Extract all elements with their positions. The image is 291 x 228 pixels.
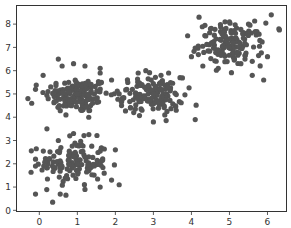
data-point <box>200 63 205 68</box>
data-point <box>98 80 103 85</box>
data-point <box>137 113 142 118</box>
data-point <box>98 184 103 189</box>
data-point <box>44 187 49 192</box>
data-point <box>153 75 158 80</box>
data-point <box>259 50 264 55</box>
data-point <box>90 101 95 106</box>
data-point <box>50 91 55 96</box>
data-point <box>212 33 217 38</box>
data-point <box>78 139 83 144</box>
data-point <box>83 81 88 86</box>
data-point <box>135 96 140 101</box>
data-point <box>79 162 84 167</box>
data-point <box>151 119 156 124</box>
data-point <box>166 70 171 75</box>
y-tick-label: 8 <box>5 19 11 29</box>
data-point <box>60 63 65 68</box>
data-point <box>211 45 216 50</box>
data-point <box>229 31 234 36</box>
data-point <box>79 108 84 113</box>
data-point <box>58 191 63 196</box>
data-point <box>131 110 136 115</box>
data-point <box>33 164 38 169</box>
x-tick-label: 6 <box>265 217 271 227</box>
data-point <box>196 44 201 49</box>
data-point <box>72 141 77 146</box>
data-point <box>75 91 80 96</box>
data-point <box>193 117 198 122</box>
data-point <box>223 26 228 31</box>
data-point <box>91 162 96 167</box>
data-point <box>246 22 251 27</box>
data-point <box>81 133 86 138</box>
data-point <box>41 73 46 78</box>
data-point <box>227 53 232 58</box>
data-point <box>136 70 141 75</box>
data-point <box>147 98 152 103</box>
data-point <box>95 176 100 181</box>
data-point <box>200 24 205 29</box>
data-point <box>60 90 65 95</box>
data-point <box>172 91 177 96</box>
data-point <box>196 15 201 20</box>
data-point <box>82 182 87 187</box>
scatter-chart: 0123456 012345678 <box>0 0 291 228</box>
data-point <box>238 61 243 66</box>
data-point <box>263 21 268 26</box>
data-point <box>258 63 263 68</box>
data-point <box>58 108 63 113</box>
data-point <box>158 87 163 92</box>
data-point <box>219 31 224 36</box>
data-point <box>261 77 266 82</box>
data-point <box>222 19 227 24</box>
data-point <box>74 79 79 84</box>
data-point <box>256 32 261 37</box>
data-point <box>75 171 80 176</box>
data-point <box>139 108 144 113</box>
data-point <box>194 103 199 108</box>
data-point <box>159 94 164 99</box>
y-tick-label: 7 <box>5 43 11 53</box>
data-point <box>160 81 165 86</box>
data-point <box>208 26 213 31</box>
data-point <box>240 31 245 36</box>
data-point <box>34 146 39 151</box>
data-point <box>158 73 163 78</box>
data-point <box>29 101 34 106</box>
data-point <box>121 95 126 100</box>
data-point <box>33 87 38 92</box>
data-point <box>174 108 179 113</box>
data-point <box>104 91 109 96</box>
data-point <box>220 43 225 48</box>
data-point <box>127 99 132 104</box>
data-point <box>276 26 281 31</box>
data-point <box>241 35 246 40</box>
data-point <box>151 106 156 111</box>
data-point <box>227 19 232 24</box>
data-point <box>40 90 45 95</box>
x-tick-label: 5 <box>227 217 233 227</box>
data-point <box>225 59 230 64</box>
data-point <box>70 173 75 178</box>
data-point <box>113 147 118 152</box>
data-point <box>189 54 194 59</box>
data-point <box>62 81 67 86</box>
data-point <box>67 98 72 103</box>
data-point <box>185 33 190 38</box>
data-point <box>85 92 90 97</box>
y-tick-label: 4 <box>5 112 11 122</box>
data-point <box>246 33 251 38</box>
x-tick-label: 2 <box>113 217 119 227</box>
data-point <box>182 92 187 97</box>
data-point <box>269 12 274 17</box>
data-point <box>71 131 76 136</box>
data-point <box>41 149 46 154</box>
data-point <box>165 84 170 89</box>
y-tick-label: 2 <box>5 159 11 169</box>
x-tick-label: 4 <box>189 217 195 227</box>
data-point <box>234 49 239 54</box>
data-point <box>191 49 196 54</box>
data-point <box>218 22 223 27</box>
data-point <box>168 80 173 85</box>
data-point <box>89 144 94 149</box>
